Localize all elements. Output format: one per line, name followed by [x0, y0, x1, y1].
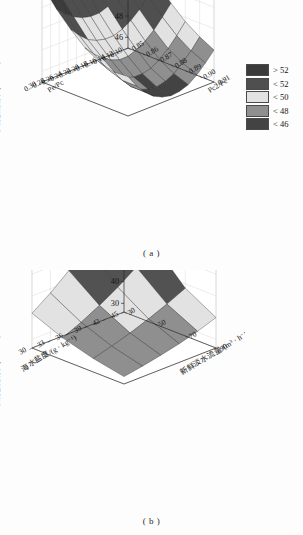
panel-a-plot-area: 4648505254560.100.120.140.160.180.200.22… [0, 0, 245, 270]
panel-a-caption: ( a ) [0, 248, 303, 258]
legend-row: < 52 [246, 78, 303, 90]
z-tick-label: 48 [115, 12, 123, 21]
legend-row: > 52 [246, 64, 303, 76]
legend-row: < 50 [246, 91, 303, 103]
legend-label: < 50 [273, 92, 288, 102]
panel-b-caption: ( b ) [0, 516, 303, 526]
legend-swatch [246, 64, 269, 76]
legend-row: < 48 [246, 105, 303, 117]
panel-b-z-axis-title: ORC系统总㶲成本/($ · GJ⁻¹) [0, 335, 1, 423]
legend-label: < 46 [273, 119, 288, 129]
legend-swatch [246, 105, 269, 117]
panel-a-legend: > 52< 52< 50< 48< 46 [246, 64, 303, 132]
legend-swatch [246, 118, 269, 130]
legend-label: < 52 [273, 79, 288, 89]
surface-plot-a: 4648505254560.100.120.140.160.180.200.22… [0, 0, 245, 270]
z-tick-label: 40 [111, 277, 119, 286]
legend-swatch [246, 91, 269, 103]
panel-b-plot-area: 30405060708045423936333030507090海水盐度/(g … [0, 270, 245, 535]
legend-label: > 52 [273, 65, 288, 75]
legend-label: < 48 [273, 106, 288, 116]
x-tick-label: 30 [17, 345, 28, 357]
surface-plot-b: 30405060708045423936333030507090海水盐度/(g … [0, 270, 245, 535]
z-tick-label: 30 [111, 299, 119, 308]
figure-page: 4648505254560.100.120.140.160.180.200.22… [0, 0, 303, 535]
panel-a: 4648505254560.100.120.140.160.180.200.22… [0, 0, 303, 270]
panel-a-z-axis-title: ORC系统总㶲成本/($ · GJ⁻¹) [0, 61, 1, 149]
panel-b: 30405060708045423936333030507090海水盐度/(g … [0, 270, 303, 535]
legend-row: < 46 [246, 118, 303, 130]
legend-swatch [246, 78, 269, 90]
z-tick-label: 46 [115, 33, 123, 42]
